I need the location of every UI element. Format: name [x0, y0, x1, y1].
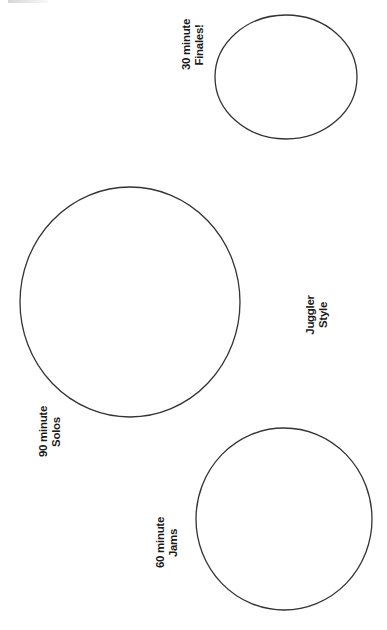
label-juggler-line1: Juggler: [304, 292, 317, 338]
label-juggler: Juggler Style: [304, 292, 330, 338]
label-jams-line1: 60 minute: [154, 518, 167, 568]
label-jams: 60 minute Jams: [154, 518, 180, 568]
label-solos-line2: Solos: [50, 407, 63, 457]
label-solos-line1: 90 minute: [37, 407, 50, 457]
circle-solos: [20, 187, 240, 417]
diagram-canvas: 30 minute Finales! Juggler Style 90 minu…: [0, 0, 387, 630]
circle-finales: [215, 15, 357, 139]
label-finales: 30 minute Finales!: [180, 20, 206, 70]
circle-jams: [196, 428, 372, 610]
label-juggler-line2: Style: [317, 292, 330, 338]
label-finales-line1: 30 minute: [180, 20, 193, 70]
label-solos: 90 minute Solos: [37, 407, 63, 457]
label-jams-line2: Jams: [167, 518, 180, 568]
label-finales-line2: Finales!: [193, 20, 206, 70]
